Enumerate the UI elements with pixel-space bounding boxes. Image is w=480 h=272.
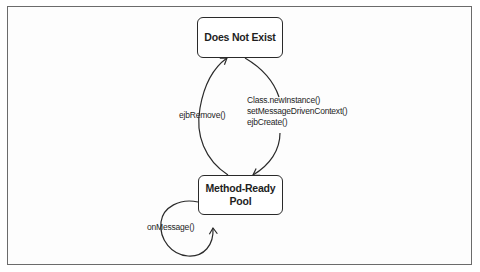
ejbremove-text: ejbRemove() <box>179 110 225 120</box>
state-method-ready-pool-label-line1: Method-Ready <box>206 182 276 195</box>
state-does-not-exist-label: Does Not Exist <box>204 31 275 44</box>
set-message-driven-context-text: setMessageDrivenContext() <box>247 106 347 117</box>
ejbcreate-text: ejbCreate() <box>247 117 347 128</box>
class-newinstance-text: Class.newInstance() <box>247 95 347 106</box>
state-does-not-exist: Does Not Exist <box>197 17 283 58</box>
transition-label-ejbremove: ejbRemove() <box>179 110 225 121</box>
create-arrow-tail <box>253 133 280 175</box>
transition-label-onmessage: onMessage() <box>147 222 194 233</box>
create-arrow <box>245 58 279 97</box>
transition-label-create: Class.newInstance() setMessageDrivenCont… <box>247 95 347 128</box>
onmessage-text: onMessage() <box>147 222 194 232</box>
state-method-ready-pool-label-line2: Pool <box>230 195 252 208</box>
state-method-ready-pool: Method-Ready Pool <box>198 175 283 215</box>
